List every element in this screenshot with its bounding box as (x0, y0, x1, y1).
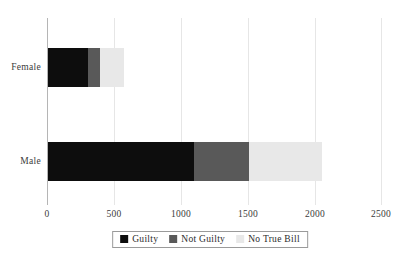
legend-item-guilty[interactable]: Guilty (120, 234, 158, 244)
bar-segment-male-guilty[interactable] (47, 142, 194, 181)
x-axis-tick-1500: 1500 (218, 209, 278, 219)
x-axis-tick-1000: 1000 (151, 209, 211, 219)
y-axis-label-male: Male (0, 156, 41, 166)
legend-label-no-true-bill: No True Bill (248, 234, 300, 244)
legend-swatch-guilty (120, 235, 128, 243)
x-axis-tick-2000: 2000 (285, 209, 345, 219)
bar-group-female[interactable] (47, 48, 124, 87)
stacked-bar-chart: Female Male 0 500 1000 1500 2000 2500 Gu… (0, 0, 420, 261)
bar-segment-male-not-guilty[interactable] (194, 142, 249, 181)
y-axis-line (47, 18, 48, 205)
y-axis-label-female: Female (0, 62, 41, 72)
legend-swatch-no-true-bill (236, 235, 244, 243)
gridline-2500 (381, 18, 382, 205)
chart-legend: Guilty Not Guilty No True Bill (112, 231, 308, 248)
legend-swatch-not-guilty (169, 235, 177, 243)
x-axis-tick-2500: 2500 (351, 209, 411, 219)
legend-item-not-guilty[interactable]: Not Guilty (169, 234, 225, 244)
legend-label-not-guilty: Not Guilty (181, 234, 225, 244)
legend-label-guilty: Guilty (132, 234, 158, 244)
legend-item-no-true-bill[interactable]: No True Bill (236, 234, 300, 244)
bar-group-male[interactable] (47, 142, 322, 181)
bar-segment-female-not-guilty[interactable] (88, 48, 100, 87)
plot-area (47, 18, 382, 205)
bar-segment-female-guilty[interactable] (47, 48, 88, 87)
x-axis-tick-0: 0 (17, 209, 77, 219)
bar-segment-female-no-true-bill[interactable] (100, 48, 124, 87)
x-axis-tick-500: 500 (84, 209, 144, 219)
bar-segment-male-no-true-bill[interactable] (249, 142, 322, 181)
